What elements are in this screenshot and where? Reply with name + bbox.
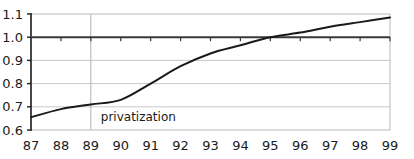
chart-container: 1.11.00.90.80.70.6 878889909192939495969… — [0, 0, 414, 159]
x-axis-tick-label: 87 — [23, 138, 40, 153]
x-axis-tick-label: 92 — [172, 138, 189, 153]
y-axis-tick-label: 0.6 — [2, 123, 23, 138]
x-axis-tick-label: 91 — [142, 138, 159, 153]
x-axis-tick-label: 97 — [322, 138, 339, 153]
x-axis-tick-label: 93 — [202, 138, 219, 153]
x-axis-tick-label: 96 — [292, 138, 309, 153]
annotation-privatization: privatization — [101, 110, 176, 124]
x-axis-tick-label: 99 — [382, 138, 399, 153]
x-axis-tick-label: 90 — [112, 138, 129, 153]
x-axis-tick-label: 95 — [262, 138, 279, 153]
x-axis-tick-label: 94 — [232, 138, 249, 153]
y-axis-tick-label: 0.7 — [2, 99, 23, 114]
line-chart: 1.11.00.90.80.70.6 878889909192939495969… — [0, 0, 414, 159]
y-axis-tick-label: 0.8 — [2, 76, 23, 91]
x-axis-tick-label: 88 — [53, 138, 70, 153]
x-axis-tick-label: 89 — [83, 138, 100, 153]
y-axis-tick-label: 0.9 — [2, 53, 23, 68]
x-axis-tick-label: 98 — [352, 138, 369, 153]
y-axis-tick-label: 1.1 — [2, 7, 23, 22]
y-axis-tick-label: 1.0 — [2, 30, 23, 45]
